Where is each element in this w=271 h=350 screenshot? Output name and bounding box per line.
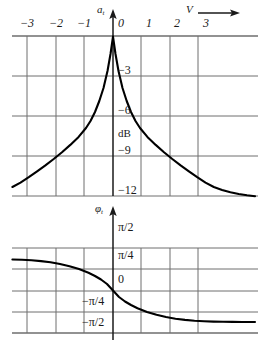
magnitude-axis-label: at — [97, 3, 104, 17]
magnitude-tick-neg12: −12 — [118, 183, 137, 198]
x-tick-label-1: 1 — [146, 16, 152, 31]
phase-tick-neg-pi-over-4: −π/4 — [82, 294, 104, 309]
phase-tick-zero: 0 — [118, 272, 124, 287]
magnitude-axis-subscript: t — [103, 9, 105, 17]
x-tick-label-neg3: −3 — [20, 16, 34, 31]
magnitude-tick-neg9: −9 — [118, 143, 131, 158]
x-axis-label: V — [186, 3, 193, 15]
x-tick-label-2: 2 — [174, 16, 180, 31]
x-tick-label-3: 3 — [203, 16, 209, 31]
figure-background — [0, 0, 271, 350]
phase-axis-subscript: t — [101, 208, 103, 216]
phase-tick-neg-pi-over-2: −π/2 — [82, 315, 104, 330]
phase-tick-pi-over-4: π/4 — [118, 248, 133, 263]
bode-figure — [0, 0, 271, 350]
x-tick-label-0: 0 — [118, 16, 124, 31]
x-tick-label-neg2: −2 — [49, 16, 63, 31]
magnitude-tick-neg6: −6 — [118, 103, 131, 118]
phase-tick-pi-over-2: π/2 — [118, 220, 133, 235]
x-tick-label-neg1: −1 — [77, 16, 91, 31]
magnitude-unit-label: dB — [118, 127, 131, 139]
magnitude-tick-neg3: −3 — [118, 63, 131, 78]
phase-axis-label: φt — [95, 202, 103, 216]
